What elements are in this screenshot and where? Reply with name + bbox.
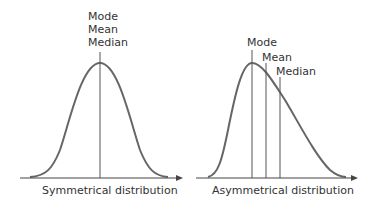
label-median-asym: Median xyxy=(276,65,316,78)
axis-arrow-icon xyxy=(351,175,358,181)
axis-arrow-icon xyxy=(176,175,183,181)
label-mode-asym: Mode xyxy=(247,36,277,49)
symmetrical-panel: Mode Mean Median Symmetrical distributio… xyxy=(20,10,183,197)
label-mean-sym: Mean xyxy=(88,23,118,36)
label-median-sym: Median xyxy=(88,36,128,49)
asymmetrical-panel: Mode Mean Median Asymmetrical distributi… xyxy=(196,36,358,197)
caption-asymmetrical: Asymmetrical distribution xyxy=(212,184,354,197)
symmetrical-curve xyxy=(30,63,168,177)
asymmetrical-curve xyxy=(208,63,346,177)
label-mode-sym: Mode xyxy=(88,10,118,23)
distribution-diagram: Mode Mean Median Symmetrical distributio… xyxy=(0,0,373,202)
caption-symmetrical: Symmetrical distribution xyxy=(42,184,178,197)
label-mean-asym: Mean xyxy=(262,51,292,64)
